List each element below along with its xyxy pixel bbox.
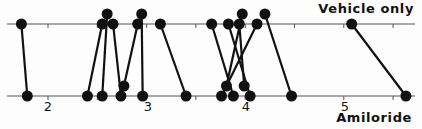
pair-line <box>21 24 27 96</box>
vehicle-point <box>234 19 245 30</box>
amiloride-point <box>22 91 33 102</box>
amiloride-point <box>97 91 108 102</box>
amiloride-point <box>216 91 227 102</box>
top-row-label: Vehicle only <box>318 1 414 16</box>
x-tick-label: 4 <box>242 99 250 114</box>
vehicle-point <box>136 9 147 20</box>
amiloride-point <box>82 91 93 102</box>
amiloride-point <box>118 81 129 92</box>
vehicle-point <box>223 19 234 30</box>
vehicle-point <box>16 19 27 30</box>
axes <box>7 24 415 100</box>
x-tick-label: 5 <box>341 99 349 114</box>
pair-line <box>265 14 292 96</box>
vehicle-point <box>346 19 357 30</box>
pair-line <box>87 24 102 96</box>
amiloride-point <box>286 91 297 102</box>
x-tick-label: 2 <box>44 99 52 114</box>
vehicle-point <box>108 19 119 30</box>
vehicle-point <box>237 9 248 20</box>
vehicle-point <box>97 19 108 30</box>
amiloride-point <box>228 91 239 102</box>
amiloride-point <box>181 91 192 102</box>
pair-line <box>352 24 406 96</box>
vehicle-point <box>132 19 143 30</box>
pair-line <box>124 24 138 86</box>
amiloride-point <box>400 91 411 102</box>
amiloride-point <box>221 81 232 92</box>
data-points <box>16 9 412 102</box>
vehicle-point <box>259 9 270 20</box>
vehicle-point <box>102 9 113 20</box>
vehicle-point <box>206 19 217 30</box>
pair-line <box>160 24 186 96</box>
x-tick-label: 3 <box>144 99 152 114</box>
vehicle-point <box>155 19 166 30</box>
vehicle-point <box>252 19 263 30</box>
amiloride-point <box>239 81 250 92</box>
amiloride-point <box>115 91 126 102</box>
